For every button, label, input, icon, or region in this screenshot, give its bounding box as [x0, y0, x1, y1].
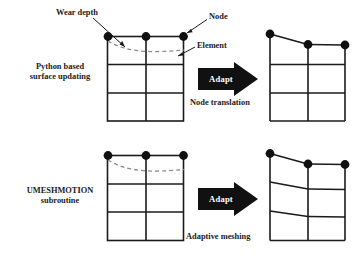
- mesh-top-edge-segment: [308, 164, 345, 165]
- surface-node: [104, 32, 113, 41]
- mesh-gridline-horizontal-sloped: [270, 211, 308, 217]
- mesh-top-edge-segment: [270, 154, 308, 165]
- method-label-line2: subroutine: [8, 196, 112, 206]
- adapt-arrow-label: Adapt: [209, 74, 233, 84]
- method-label-umeshmotion: UMESHMOTION subroutine: [8, 186, 112, 206]
- surface-node: [179, 32, 188, 41]
- wear-depth-arrowhead: [120, 41, 126, 47]
- diagram-canvas: Wear depth Node Element Python based sur…: [0, 0, 358, 263]
- wear-depth-leader: [93, 18, 125, 47]
- row2-before-mesh: [104, 151, 188, 240]
- element-label: Element: [197, 41, 227, 51]
- mesh-top-edge-segment: [270, 34, 308, 45]
- wear-depth-label: Wear depth: [56, 8, 98, 18]
- method-label-python: Python based surface updating: [14, 62, 106, 82]
- mesh-gridline-horizontal-sloped: [308, 217, 345, 218]
- surface-node: [341, 41, 350, 50]
- mesh-gridline-horizontal-sloped: [270, 182, 308, 189]
- mesh-top-edge-segment: [308, 45, 345, 46]
- result-caption-node-translation: Node translation: [190, 98, 250, 108]
- surface-node: [104, 151, 113, 160]
- mesh-adaptation-svg: [0, 0, 358, 263]
- surface-node: [304, 160, 313, 169]
- surface-node: [142, 151, 151, 160]
- surface-node: [266, 149, 275, 158]
- result-caption-adaptive-meshing: Adaptive meshing: [186, 232, 250, 242]
- surface-node: [304, 40, 313, 49]
- row1-after-mesh: [266, 30, 350, 121]
- surface-node: [341, 160, 350, 169]
- surface-node: [179, 151, 188, 160]
- surface-node: [266, 30, 275, 39]
- row1-before-mesh: [104, 32, 188, 121]
- method-label-line1: UMESHMOTION: [8, 186, 112, 196]
- mesh-gridline-horizontal-sloped: [308, 189, 345, 190]
- surface-node: [142, 32, 151, 41]
- row2-after-mesh: [266, 149, 350, 240]
- adapt-arrow-label: Adapt: [209, 194, 233, 204]
- method-label-line1: Python based: [14, 62, 106, 72]
- method-label-line2: surface updating: [14, 72, 106, 82]
- node-label: Node: [209, 12, 228, 22]
